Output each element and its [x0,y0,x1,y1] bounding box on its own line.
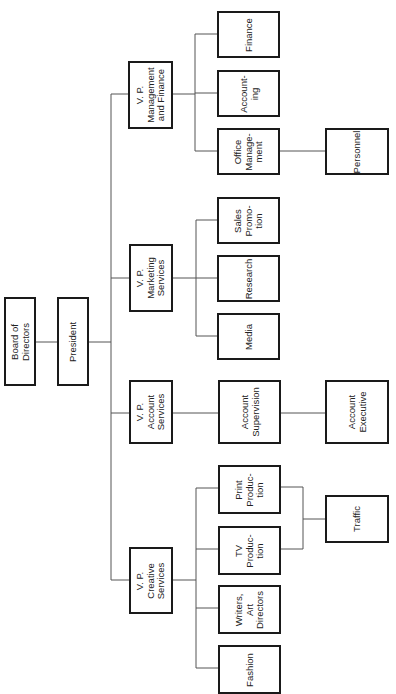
sales-promotion-label: Sales Promo- tion [233,205,265,236]
board-of-directors-box: Board of Directors [4,297,36,386]
fashion-label: Fashion [244,653,255,687]
vp-marketing-services-box: V. P. Marketing Services [129,244,173,312]
research-box: Research [217,255,280,302]
vp-management-finance-box: V. P. Management and Finance [128,61,173,129]
writers-art-directors-label: Writers, Art Directors [234,590,266,628]
office-management-box: Office Manage- ment [217,128,280,175]
account-supervision-label: Account Supervision [239,387,260,437]
vp-creative-services-label: V. P. Creative Services [135,562,167,598]
personnel-box: Personnel [325,128,389,175]
vp-account-services-box: V. P. Account Services [129,380,173,444]
vp-account-services-label: V. P. Account Services [135,394,167,430]
writers-art-directors-box: Writers, Art Directors [218,585,281,634]
account-executive-label: Account Executive [347,391,368,432]
board-of-directors-label: Board of Directors [10,322,31,360]
president-box: President [57,297,89,386]
fashion-box: Fashion [218,645,281,694]
print-production-box: Print Produc- tion [218,465,281,514]
president-label: President [68,321,79,361]
finance-box: Finance [217,11,280,58]
media-box: Media [217,313,280,360]
tv-production-label: TV Produc- tion [234,534,266,567]
traffic-label: Traffic [352,506,363,532]
research-label: Research [243,258,254,299]
vp-management-finance-label: V. P. Management and Finance [135,67,167,122]
tv-production-box: TV Produc- tion [218,526,281,575]
office-management-label: Office Manage- ment [233,133,265,171]
media-label: Media [243,324,254,350]
accounting-box: Account- ing [217,70,280,117]
sales-promotion-box: Sales Promo- tion [217,197,280,244]
print-production-label: Print Produc- tion [234,473,266,506]
traffic-box: Traffic [325,495,389,543]
finance-label: Finance [243,18,254,52]
vp-creative-services-box: V. P. Creative Services [129,547,173,614]
account-supervision-box: Account Supervision [218,380,281,444]
personnel-label: Personnel [352,130,363,173]
accounting-label: Account- ing [238,75,259,113]
vp-marketing-services-label: V. P. Marketing Services [135,257,167,299]
account-executive-box: Account Executive [325,380,389,444]
